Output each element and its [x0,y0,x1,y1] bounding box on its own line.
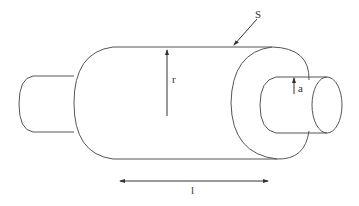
inner-radius-label: a [298,83,303,94]
surface-label: S [255,9,261,20]
left-shaft [19,76,74,132]
main-cylinder [74,47,309,159]
length-label: l [191,185,194,196]
surface-s-leader [234,19,257,45]
cylinder-diagram [0,0,359,206]
diagram-canvas: S r a l [0,0,359,206]
outer-radius-label: r [172,74,176,85]
